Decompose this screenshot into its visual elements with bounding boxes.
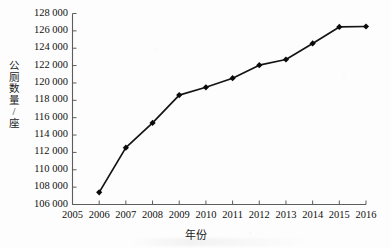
x-tick-label: 2016	[349, 209, 383, 220]
x-tick-label-group: 2005200620072008200920102011201220132014…	[0, 0, 391, 248]
x-axis-title: 年份	[0, 226, 391, 242]
chart-figure: 106 000108 000110 000112 000114 000116 0…	[0, 0, 391, 248]
